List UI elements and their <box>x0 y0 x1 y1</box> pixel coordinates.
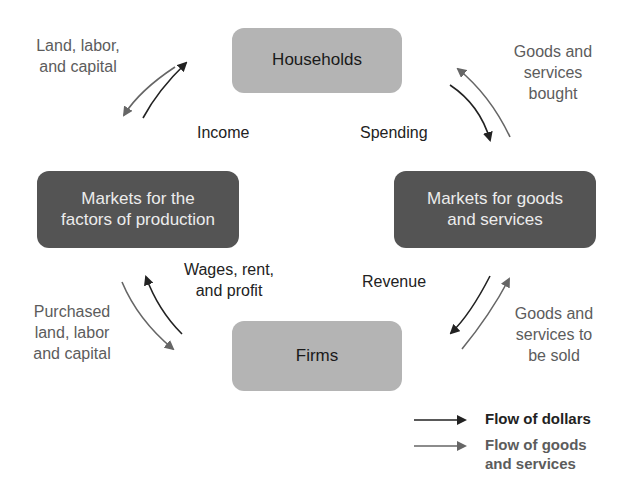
arrow-spending <box>450 85 490 140</box>
arrow-revenue <box>451 276 490 333</box>
label-wages-rent-profit: Wages, rent,and profit <box>174 260 284 302</box>
label-purchased-factors: Purchasedland, laborand capital <box>22 302 122 364</box>
label-revenue: Revenue <box>362 272 426 293</box>
arrow-goods-bought <box>458 69 510 137</box>
label-goods-services-bought: Goods andservicesbought <box>505 42 601 104</box>
legend-dollars-label: Flow of dollars <box>485 410 591 429</box>
label-goods-services-sold: Goods andservices tobe sold <box>506 304 602 366</box>
goods-markets-node: Markets for goodsand services <box>394 171 596 248</box>
arrow-income <box>143 63 186 118</box>
arrow-goods-to-be-sold <box>462 279 509 349</box>
legend-goods-label: Flow of goodsand services <box>485 436 587 474</box>
label-spending: Spending <box>360 123 428 144</box>
firms-node: Firms <box>232 321 402 391</box>
label-income: Income <box>197 123 249 144</box>
label-land-labor-capital: Land, labor,and capital <box>24 36 132 78</box>
factor-markets-node: Markets for thefactors of production <box>37 171 239 248</box>
households-node: Households <box>232 28 402 93</box>
